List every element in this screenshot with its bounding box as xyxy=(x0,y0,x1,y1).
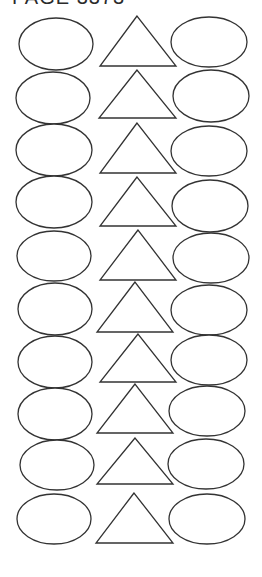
triangle xyxy=(100,177,176,226)
shape-row xyxy=(18,334,247,388)
triangle xyxy=(96,493,173,543)
left-ellipse xyxy=(18,283,92,335)
triangle xyxy=(97,438,173,484)
right-ellipse xyxy=(171,17,247,67)
left-ellipse xyxy=(16,124,92,176)
right-ellipse xyxy=(168,439,244,489)
triangle xyxy=(99,70,176,118)
shape-row xyxy=(16,176,248,232)
shape-row xyxy=(16,70,249,124)
right-ellipse xyxy=(171,285,247,335)
shape-row xyxy=(17,230,249,283)
left-ellipse xyxy=(17,494,91,544)
left-ellipse xyxy=(20,440,94,490)
right-ellipse xyxy=(169,494,245,544)
right-ellipse xyxy=(171,335,247,385)
shape-row xyxy=(20,438,244,490)
shape-row xyxy=(16,123,247,176)
shape-row xyxy=(17,493,245,544)
left-ellipse xyxy=(18,388,92,440)
shape-row xyxy=(18,384,245,440)
triangle xyxy=(97,282,173,332)
triangle xyxy=(100,16,176,66)
left-ellipse xyxy=(19,18,93,70)
right-ellipse xyxy=(169,386,245,436)
right-ellipse xyxy=(172,180,248,232)
right-ellipse xyxy=(171,126,247,176)
left-ellipse xyxy=(17,231,91,281)
shape-row xyxy=(18,282,247,335)
shape-row xyxy=(19,16,247,70)
shapes-sheet xyxy=(0,0,262,577)
left-ellipse xyxy=(18,336,92,388)
triangle xyxy=(100,123,176,173)
triangle xyxy=(100,230,176,280)
left-ellipse xyxy=(16,72,90,124)
left-ellipse xyxy=(16,176,92,228)
right-ellipse xyxy=(173,70,249,122)
triangle xyxy=(100,334,176,382)
triangle xyxy=(97,384,173,433)
right-ellipse xyxy=(173,233,249,283)
